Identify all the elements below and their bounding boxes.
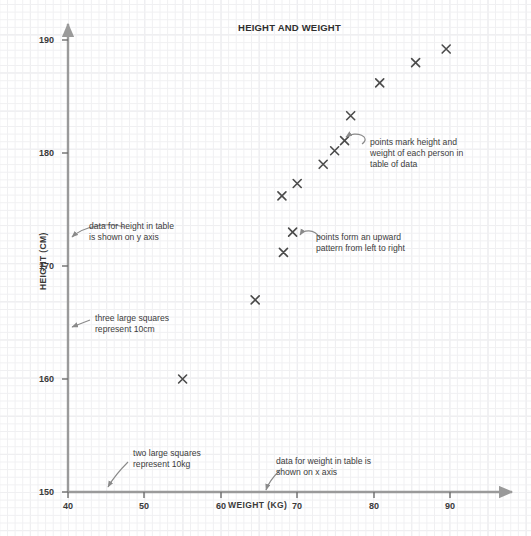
y-tick-180: 180 [28,148,54,158]
x-tick-70: 70 [284,501,310,511]
data-point [347,112,355,120]
annotation-upward-pattern: points form an upward pattern from left … [316,232,436,254]
x-tick-50: 50 [131,501,157,511]
annotation-weight-x-axis: data for weight in table is shown on x a… [276,456,416,478]
data-point [179,375,187,383]
data-point [412,59,420,67]
data-point [289,228,297,236]
y-axis [62,24,68,492]
data-point [331,147,339,155]
annotation-two-squares: two large squares represent 10kg [133,448,243,470]
x-tick-80: 80 [361,501,387,511]
data-point [376,79,384,87]
data-point [279,248,287,256]
scatter-chart: HEIGHT AND WEIGHT [0,0,531,536]
y-axis-title: HEIGHT (CM) [38,232,48,290]
y-tick-160: 160 [28,374,54,384]
data-point-group [179,45,451,383]
annotation-points-mark: points mark height and weight of each pe… [370,137,500,171]
annotation-three-squares: three large squares represent 10cm [95,313,205,335]
data-point [341,137,349,145]
data-point [278,192,286,200]
data-point [319,160,327,168]
x-axis [68,492,512,498]
data-point [293,180,301,188]
chart-plot-area [0,0,531,536]
data-point [251,296,259,304]
y-tick-190: 190 [28,35,54,45]
annotation-height-y-axis: data for height in table is shown on y a… [89,221,214,243]
data-point [442,45,450,53]
y-tick-150: 150 [28,487,54,497]
x-tick-90: 90 [437,501,463,511]
x-axis-title: WEIGHT (KG) [228,500,287,510]
x-tick-40: 40 [55,501,81,511]
